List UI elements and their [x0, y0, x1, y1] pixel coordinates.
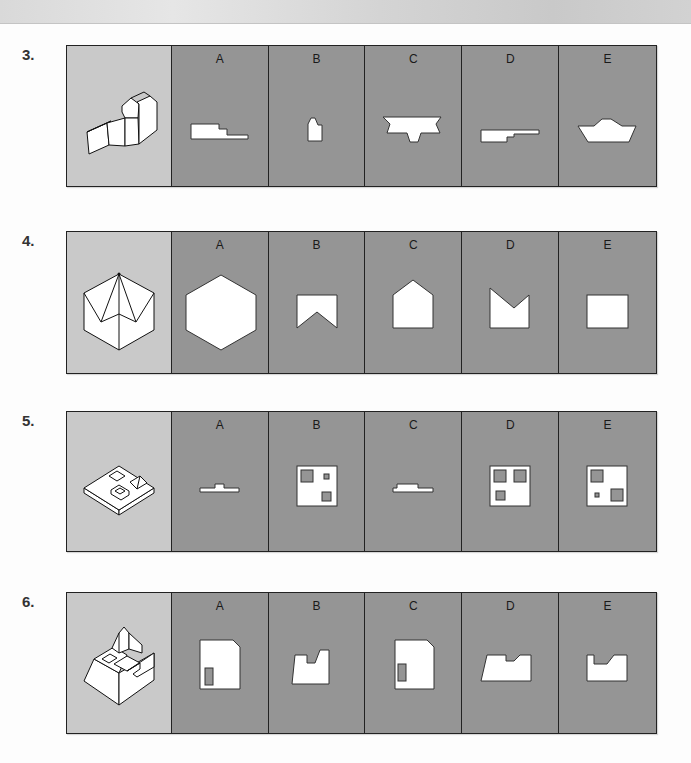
thin-raised-profile-icon — [172, 412, 269, 551]
question-number: 3. — [22, 46, 35, 63]
boat-profile-icon — [559, 46, 656, 186]
stepped-block-with-pyramid-figure-icon — [67, 593, 172, 733]
v-notched-top-rectangle-icon — [462, 232, 559, 373]
option-b[interactable]: B — [269, 593, 366, 733]
option-a[interactable]: A — [172, 232, 269, 373]
option-e[interactable]: E — [559, 46, 656, 186]
stem-figure-cell — [67, 412, 172, 551]
option-c[interactable]: C — [365, 232, 462, 373]
option-a[interactable]: A — [172, 593, 269, 733]
flared-tee-profile-icon — [365, 46, 462, 186]
question-5: 5. A B — [0, 411, 691, 552]
question-3: 3. A B — [0, 45, 691, 187]
chamfered-rect-with-slot-left-icon — [172, 593, 269, 733]
option-a[interactable]: A — [172, 46, 269, 186]
stepped-profile-icon — [172, 46, 269, 186]
option-b[interactable]: B — [269, 46, 366, 186]
square-with-three-holes-icon — [269, 412, 366, 551]
option-e[interactable]: E — [559, 232, 656, 373]
option-d[interactable]: D — [462, 46, 559, 186]
sloped-stepped-profile-icon — [269, 593, 366, 733]
sloped-notched-profile-icon — [462, 593, 559, 733]
question-strip: A B C D E — [66, 592, 657, 734]
stem-figure-cell — [67, 593, 172, 733]
isometric-block-figure-icon — [67, 46, 172, 186]
pentagon-house-icon — [365, 232, 462, 373]
top-bar — [0, 0, 691, 24]
question-strip: A B C D E — [66, 45, 657, 187]
option-e[interactable]: E — [559, 593, 656, 733]
question-number: 5. — [22, 412, 35, 429]
tall-notched-block-icon — [269, 46, 366, 186]
hexagonal-pyramid-figure-icon — [67, 232, 172, 373]
question-number: 6. — [22, 593, 35, 610]
option-b[interactable]: B — [269, 232, 366, 373]
notched-bottom-rectangle-icon — [269, 232, 366, 373]
option-e[interactable]: E — [559, 412, 656, 551]
question-6: 6. A — [0, 592, 691, 734]
square-with-mixed-holes-icon — [559, 412, 656, 551]
question-strip: A B C D E — [66, 231, 657, 374]
option-d[interactable]: D — [462, 412, 559, 551]
square-with-three-equal-holes-icon — [462, 412, 559, 551]
question-number: 4. — [22, 232, 35, 249]
notched-rectangle-icon — [559, 593, 656, 733]
hexagon-icon — [172, 232, 269, 373]
long-stepped-profile-icon — [462, 46, 559, 186]
plate-with-recesses-figure-icon — [67, 412, 172, 551]
option-c[interactable]: C — [365, 46, 462, 186]
stem-figure-cell — [67, 46, 172, 186]
stem-figure-cell — [67, 232, 172, 373]
thin-raised-profile-2-icon — [365, 412, 462, 551]
question-strip: A B C D — [66, 411, 657, 552]
option-c[interactable]: C — [365, 593, 462, 733]
option-d[interactable]: D — [462, 593, 559, 733]
option-b[interactable]: B — [269, 412, 366, 551]
option-d[interactable]: D — [462, 232, 559, 373]
chamfered-rect-with-slot-icon — [365, 593, 462, 733]
option-c[interactable]: C — [365, 412, 462, 551]
rectangle-icon — [559, 232, 656, 373]
question-4: 4. A B — [0, 231, 691, 374]
option-a[interactable]: A — [172, 412, 269, 551]
